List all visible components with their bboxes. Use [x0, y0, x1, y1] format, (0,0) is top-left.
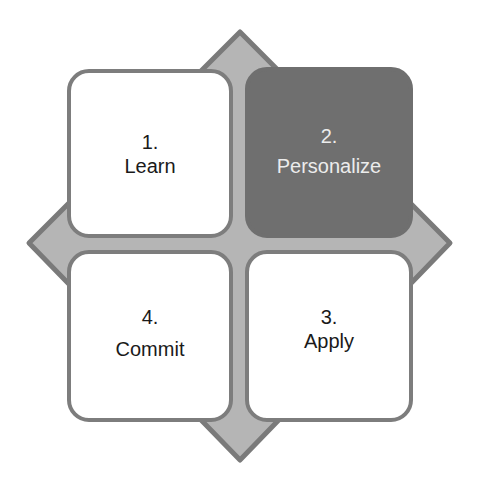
step-number: 2.: [321, 124, 338, 148]
step-commit-box: 4. Commit: [67, 250, 233, 422]
step-learn-box: 1. Learn: [67, 69, 233, 238]
step-personalize-box: 2. Personalize: [245, 67, 413, 238]
step-number: 1.: [142, 130, 159, 154]
step-label: Learn: [124, 154, 175, 178]
step-label: Personalize: [277, 154, 382, 178]
step-apply-box: 3. Apply: [245, 250, 413, 422]
cycle-diagram: 1. Learn 2. Personalize 4. Commit 3. App…: [0, 0, 478, 496]
step-label: Apply: [304, 329, 354, 353]
step-number: 3.: [321, 305, 338, 329]
step-number: 4.: [142, 305, 159, 329]
step-label: Commit: [116, 337, 185, 361]
